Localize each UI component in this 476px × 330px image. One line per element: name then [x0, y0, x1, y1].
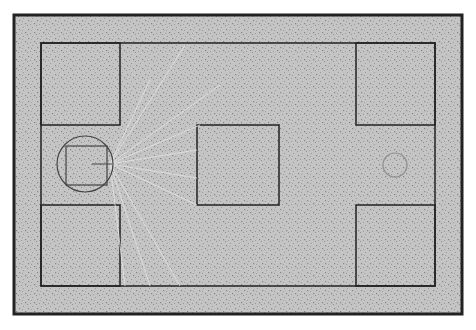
arena-floor	[14, 15, 462, 314]
game-arena	[0, 0, 476, 330]
